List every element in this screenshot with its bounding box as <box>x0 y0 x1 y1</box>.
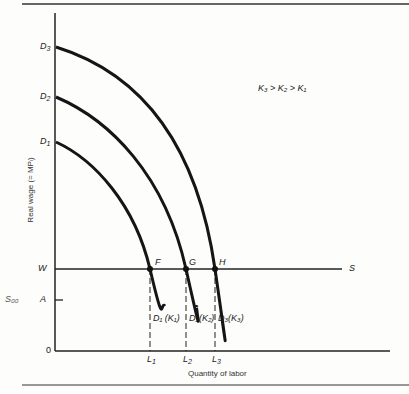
l1-label: L1 <box>147 355 156 365</box>
l2-label: L2 <box>183 355 192 365</box>
point-f <box>147 266 153 272</box>
curve-d1-label: D₁ (K₁) <box>153 314 180 323</box>
d3-intercept-label: D3 <box>40 42 50 52</box>
point-h <box>212 266 218 272</box>
d1-intercept-label: D1 <box>40 137 50 147</box>
labor-demand-diagram: D3 D2 D1 W A 0 S₀₀ Real wage (= MPₗ) K₃ … <box>0 0 409 394</box>
a-label: A <box>40 295 46 304</box>
f-label: F <box>155 258 161 267</box>
g-label: G <box>189 258 196 267</box>
y-axis-label: Real wage (= MPₗ) <box>26 157 35 222</box>
l3-label: L3 <box>212 355 221 365</box>
s-label: S <box>349 264 355 273</box>
curve-d2-label: D₂(K₂) <box>189 314 214 323</box>
demand-curve-d1 <box>56 142 165 309</box>
w-label: W <box>38 264 47 273</box>
curve-d3-label: D₃(K₃) <box>218 314 244 323</box>
d2-intercept-label: D2 <box>40 92 50 102</box>
x-axis-label: Quantity of labor <box>188 370 247 378</box>
diagram-canvas <box>0 0 409 394</box>
origin-label: 0 <box>46 346 51 355</box>
h-label: H <box>219 258 226 267</box>
k-relation-annotation: K₃ > K₂ > K₁ <box>258 84 306 93</box>
margin-note: S₀₀ <box>5 295 19 304</box>
demand-curve-d3 <box>56 47 225 341</box>
